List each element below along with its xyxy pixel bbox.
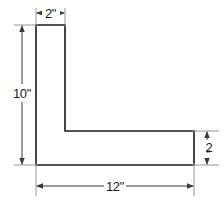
- left-dimension-label: 10": [13, 86, 32, 101]
- bottom-arrow-right-icon: [187, 183, 194, 188]
- right-dimension-inch-mark: ": [206, 148, 210, 162]
- top-arrow-left-icon: [36, 10, 43, 15]
- l-shape-outline: [36, 25, 194, 165]
- l-shape-dimension-diagram: 2" 10" 12": [0, 0, 223, 203]
- bottom-arrow-left-icon: [36, 183, 43, 188]
- right-arrow-top-icon: [204, 131, 209, 138]
- bottom-dimension-label: 12": [106, 179, 125, 194]
- left-arrow-bottom-icon: [19, 158, 24, 165]
- right-dimension-group: 2 ": [192, 131, 219, 165]
- top-dimension-group: 2": [36, 5, 65, 27]
- left-dimension-group: 10": [13, 25, 38, 165]
- left-arrow-top-icon: [19, 25, 24, 32]
- top-dimension-label: 2": [45, 6, 57, 21]
- diagram-canvas: 2" 10" 12": [0, 0, 223, 203]
- bottom-dimension-group: 12": [36, 163, 194, 196]
